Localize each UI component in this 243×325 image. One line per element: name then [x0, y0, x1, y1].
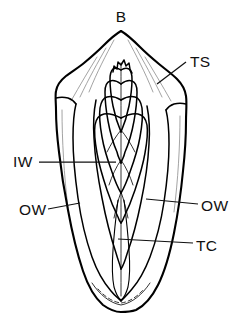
label-outer-wall-left: OW — [19, 201, 47, 218]
label-inner-wall: IW — [13, 153, 33, 170]
figure-container: B TS IW OW OW TC — [0, 0, 243, 325]
label-terminal-spike: TS — [190, 53, 211, 70]
label-bud: B — [116, 8, 127, 25]
botanical-section-drawing: B TS IW OW OW TC — [0, 0, 243, 325]
label-tissue-core: TC — [196, 237, 217, 254]
label-outer-wall-right: OW — [201, 197, 229, 214]
